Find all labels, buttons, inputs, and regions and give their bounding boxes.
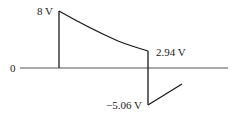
peak-label: 8 V — [37, 5, 53, 17]
negative-label: −5.06 V — [106, 99, 142, 111]
decay-curve — [59, 11, 148, 51]
zero-label: 0 — [10, 62, 16, 74]
decay-end-label: 2.94 V — [156, 46, 186, 58]
waveform-diagram: 0 8 V 2.94 V −5.06 V — [0, 0, 237, 118]
recovery-tail — [148, 84, 182, 105]
